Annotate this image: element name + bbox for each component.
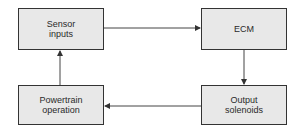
output-solenoids-label: Output solenoids	[225, 95, 263, 115]
sensor-inputs-box: Sensor inputs	[18, 8, 104, 50]
output-solenoids-box: Output solenoids	[201, 85, 287, 125]
ecm-label: ECM	[234, 24, 254, 34]
sensor-inputs-label: Sensor inputs	[47, 19, 76, 39]
powertrain-operation-label: Powertrain operation	[39, 95, 82, 115]
powertrain-operation-box: Powertrain operation	[18, 85, 104, 125]
ecm-box: ECM	[201, 8, 287, 50]
